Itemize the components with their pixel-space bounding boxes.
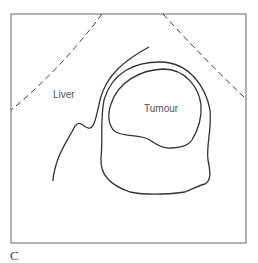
- tumour-outer-contour: [101, 62, 210, 194]
- ultrasound-diagram: Liver Tumour C: [0, 0, 258, 263]
- image-frame: [11, 14, 246, 243]
- right-dashed-boundary: [163, 14, 245, 98]
- liver-label: Liver: [53, 89, 75, 100]
- tumour-label: Tumour: [144, 103, 179, 114]
- panel-letter: C: [10, 248, 19, 263]
